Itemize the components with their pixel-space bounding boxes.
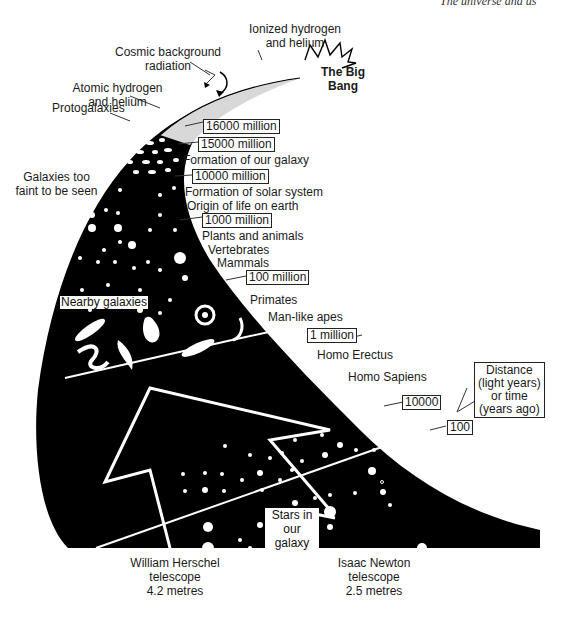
label-nearby-galaxies: Nearby galaxies [60,296,148,309]
label-ionized-hydrogen: Ionized hydrogen and helium [240,22,350,50]
event-homo-sapiens: Homo Sapiens [348,370,427,384]
early-universe-band [160,78,300,145]
marker-16000-million: 16000 million [203,119,280,134]
event-plants-animals: Plants and animals [202,229,303,243]
marker-1000-million: 1000 million [202,213,272,228]
label-cosmic-background: Cosmic background radiation [108,45,228,73]
marker-1-million: 1 million [307,328,357,343]
big-bang-title: The Big Bang [313,65,373,93]
legend-box: Distance (light years) or time (years ag… [474,362,545,418]
label-faint-galaxies: Galaxies too faint to be seen [14,170,99,198]
marker-100: 100 [447,420,473,435]
marker-15000-million: 15000 million [198,137,275,152]
event-solar-system: Formation of solar system [185,185,323,199]
event-man-like-apes: Man-like apes [268,310,343,324]
legend-line-4: (years ago) [478,403,541,416]
radiation-arrow-icon [220,72,227,92]
marker-10000: 10000 [402,395,441,410]
event-primates: Primates [250,293,297,307]
event-galaxy-formation: Formation of our galaxy [183,153,309,167]
event-mammals: Mammals [217,256,269,270]
marker-100-million: 100 million [246,270,309,285]
event-homo-erectus: Homo Erectus [317,348,393,362]
caption-newton: Isaac Newton telescope 2.5 metres [324,556,424,598]
label-protogalaxies: Protogalaxies [52,101,125,115]
label-stars-in-galaxy: Stars in our galaxy [265,508,319,550]
event-vertebrates: Vertebrates [208,243,269,257]
caption-herschel: William Herschel telescope 4.2 metres [120,556,230,598]
marker-10000-million: 10000 million [192,169,269,184]
event-origin-of-life: Origin of life on earth [187,199,298,213]
